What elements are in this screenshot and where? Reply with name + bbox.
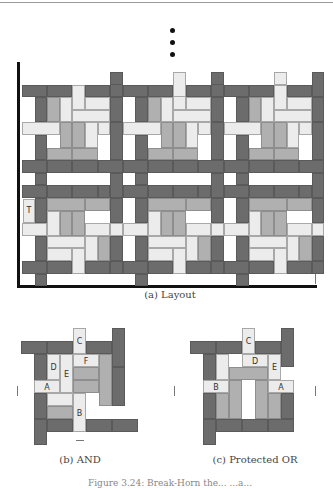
- and-block: [112, 328, 125, 367]
- layout-block: [287, 236, 300, 261]
- and-block: [112, 419, 138, 432]
- layout-block: [312, 261, 325, 274]
- or-block: [229, 367, 268, 380]
- layout-block: [60, 97, 73, 122]
- layout-block: [261, 211, 274, 236]
- layout-block: [123, 122, 161, 135]
- layout-block: [186, 85, 211, 98]
- and-block: [112, 367, 125, 406]
- layout-block: [123, 85, 148, 98]
- and-block: [34, 393, 47, 419]
- layout-block: [274, 211, 287, 236]
- and-block: [73, 367, 99, 380]
- or-block: [281, 393, 294, 419]
- layout-block: [47, 185, 72, 198]
- or-block-a: A: [268, 380, 294, 393]
- gate-label: C: [243, 329, 254, 355]
- layout-block: [211, 173, 224, 198]
- layout-block: [224, 185, 249, 198]
- or-block: [229, 380, 242, 419]
- layout-block: [47, 85, 72, 98]
- layout-block: [98, 236, 111, 261]
- layout-block: [47, 248, 72, 261]
- layout-block: [35, 173, 48, 186]
- layout-block: [274, 122, 287, 147]
- and-wire-mark: [17, 386, 18, 396]
- layout-block: [47, 148, 72, 161]
- layout-block: [35, 198, 48, 223]
- layout-block: [148, 236, 186, 249]
- layout-block: [299, 236, 312, 261]
- layout-block: [198, 122, 211, 135]
- layout-block: [35, 97, 48, 122]
- layout-block: [148, 97, 161, 122]
- layout-block: [198, 160, 223, 173]
- layout-block: [110, 72, 123, 85]
- layout-block: [274, 110, 312, 123]
- layout-block: [287, 198, 312, 211]
- layout-block: [72, 248, 85, 273]
- layout-block: [287, 122, 300, 147]
- layout-block: [211, 122, 224, 160]
- layout-block: [47, 198, 85, 211]
- layout-block: [72, 185, 97, 198]
- and-block-d: D: [47, 354, 60, 380]
- layout-block: [299, 160, 324, 173]
- layout-block: [148, 248, 173, 261]
- layout-block: [224, 160, 249, 173]
- layout-block: [22, 261, 47, 274]
- layout-bottom-wall: [17, 285, 317, 288]
- layout-block: [211, 236, 224, 261]
- layout-block: [249, 211, 262, 236]
- layout-block: [148, 198, 186, 211]
- layout-block: [148, 185, 173, 198]
- layout-block: [211, 97, 224, 122]
- and-block: [47, 341, 73, 354]
- layout-block: [173, 72, 186, 97]
- layout-block: [173, 148, 198, 161]
- layout-block: [98, 160, 123, 173]
- layout-block: [148, 148, 173, 161]
- layout-block: [22, 122, 60, 135]
- or-block-e: E: [268, 354, 281, 380]
- layout-block: [148, 160, 173, 173]
- gate-label: C: [74, 329, 85, 355]
- layout-block: [299, 122, 312, 135]
- layout-diagram: T: [0, 0, 333, 300]
- layout-block: [72, 122, 85, 147]
- layout-block: [287, 97, 312, 110]
- layout-block: [186, 223, 211, 236]
- layout-block: [224, 122, 262, 135]
- layout-block: [85, 85, 110, 98]
- layout-block: [85, 223, 110, 236]
- layout-block: [312, 223, 325, 236]
- layout-block: [110, 223, 123, 236]
- layout-block: [224, 223, 249, 236]
- layout-block: [85, 198, 110, 211]
- layout-block: [22, 185, 47, 198]
- or-block: [203, 419, 216, 445]
- and-block: [47, 406, 73, 419]
- and-block: [99, 354, 112, 406]
- layout-block: [186, 122, 199, 147]
- layout-block: [35, 236, 48, 261]
- layout-block: [186, 261, 211, 274]
- layout-block: [60, 122, 73, 147]
- layout-block: [236, 236, 249, 261]
- layout-block: [123, 261, 148, 274]
- layout-block: [274, 160, 299, 173]
- layout-block: [148, 85, 173, 98]
- layout-block: [211, 72, 224, 85]
- layout-block: [161, 97, 174, 122]
- layout-block: [224, 85, 249, 98]
- layout-block: [312, 97, 325, 122]
- layout-block: [249, 236, 287, 249]
- or-block: [255, 341, 281, 354]
- layout-block: [135, 236, 148, 261]
- or-block: [216, 354, 229, 380]
- layout-block: [148, 261, 173, 274]
- or-block: [190, 341, 216, 354]
- layout-block: [161, 211, 174, 236]
- layout-block: [186, 97, 211, 110]
- layout-block: [60, 211, 73, 236]
